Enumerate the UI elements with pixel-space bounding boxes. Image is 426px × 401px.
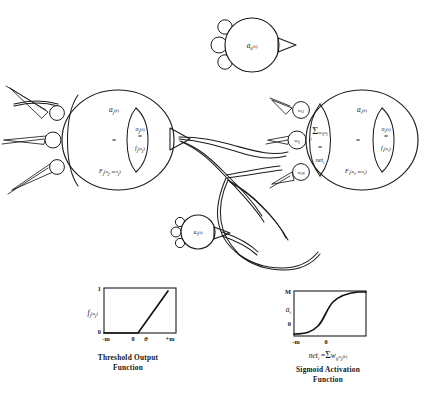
sigmoid-chart-plot-area xyxy=(294,291,366,336)
threshold-chart-ylabel: fj(aj) xyxy=(88,308,99,318)
sigmoid-chart-formula: neti =Σwijoj(t) xyxy=(309,350,348,361)
sigmoid-chart-caption-line1: Sigmoid Activation xyxy=(296,365,360,374)
sigmoid-chart-xtick-0: -m xyxy=(292,338,300,345)
sending-output-equals: = xyxy=(138,133,142,141)
threshold-chart-xtick-0: -m xyxy=(102,335,110,342)
sigmoid-chart-ytick-bottom: 0 xyxy=(288,320,291,327)
receiving-net-equals: = xyxy=(318,144,322,152)
sigmoid-chart-caption-line2: Function xyxy=(313,375,343,384)
sending-neuron xyxy=(2,86,190,194)
threshold-chart-caption-line2: Function xyxy=(113,363,143,372)
receiving-input-fiber-3 xyxy=(272,172,294,184)
threshold-chart xyxy=(104,288,176,333)
sigmoid-chart-xtick-1: 0 xyxy=(324,338,327,345)
sending-neuron-synapse-2 xyxy=(45,132,61,148)
threshold-chart-xtick-3: +m xyxy=(166,335,176,342)
sending-neuron-synapse-1 xyxy=(50,106,65,121)
threshold-chart-ytick-bottom: 0 xyxy=(98,328,101,335)
receiving-neuron xyxy=(266,90,418,190)
threshold-chart-xtick-1: 0 xyxy=(131,335,134,342)
receiving-neuron-soma xyxy=(306,90,418,190)
receiving-input-fiber-1 xyxy=(272,100,292,114)
bottom-neuron-synapse-2 xyxy=(171,227,181,237)
sending-equals: = xyxy=(112,137,116,145)
receiving-equals: = xyxy=(356,137,360,145)
top-neuron-axon-terminal xyxy=(278,38,296,52)
threshold-chart-xtick-2: θ xyxy=(144,335,148,342)
sigmoid-chart-ytick-top: M xyxy=(285,288,291,295)
receiving-output-equals: = xyxy=(384,133,388,141)
sending-input-fiber-3 xyxy=(12,164,52,190)
neuron-diagram-figure: ak(t) aj(t) = Fj(aj, netj) oj(t) = fj(aj… xyxy=(0,0,426,401)
diagram-canvas: ak(t) aj(t) = Fj(aj, netj) oj(t) = fj(aj… xyxy=(0,0,426,401)
threshold-chart-ytick-top: 1 xyxy=(98,285,101,292)
threshold-chart-caption-line1: Threshold Output xyxy=(98,353,159,362)
sending-neuron-synapse-3 xyxy=(50,160,65,175)
sigmoid-chart xyxy=(294,291,366,336)
sigmoid-chart-ylabel: ai xyxy=(286,305,292,315)
